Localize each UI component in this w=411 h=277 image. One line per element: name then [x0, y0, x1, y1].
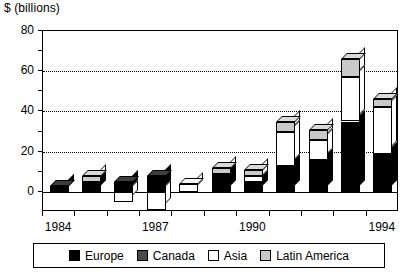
x-tickmark [301, 211, 302, 216]
bar-segment-europe [341, 122, 360, 192]
y-axis-tick-40: 40 [6, 103, 34, 117]
bar-top-face [179, 178, 204, 184]
x-axis-tick-1984: 1984 [33, 220, 83, 234]
y-tickmark [38, 50, 42, 51]
y-tickmark [38, 191, 42, 192]
legend-label: Latin America [276, 249, 349, 263]
x-tickmark [366, 211, 367, 216]
x-axis-tick-1990: 1990 [227, 220, 277, 234]
bar-segment-europe [212, 174, 231, 192]
legend-item-europe[interactable]: Europe [69, 249, 124, 263]
x-tickmark [74, 211, 75, 216]
x-tickmark [236, 211, 237, 216]
legend-label: Canada [153, 249, 195, 263]
legend-item-asia[interactable]: Asia [208, 249, 247, 263]
y-tickmark [38, 30, 42, 31]
bar-segment-europe [82, 182, 101, 192]
bar-top-face [50, 180, 75, 186]
bar-segment-latin-america [309, 130, 328, 140]
y-tickmark [38, 90, 42, 91]
bar-segment-europe [309, 160, 328, 192]
x-tickmark [171, 211, 172, 216]
zero-axis-line [43, 192, 397, 193]
bar-segment-europe [244, 182, 263, 192]
bar-segment-latin-america [276, 122, 295, 132]
x-tickmark [107, 211, 108, 216]
x-tickmark [139, 211, 140, 216]
legend-label: Asia [224, 249, 247, 263]
legend-item-canada[interactable]: Canada [137, 249, 195, 263]
bar-segment-latin-america [82, 176, 101, 182]
legend-item-latin-america[interactable]: Latin America [260, 249, 349, 263]
chart-container: $ (billions) 020406080 1984198719901994 … [0, 0, 411, 277]
legend-swatch-icon [208, 250, 219, 261]
legend-swatch-icon [260, 250, 271, 261]
bar-segment-latin-america [341, 59, 360, 77]
y-axis-tick-20: 20 [6, 144, 34, 158]
bar-segment-latin-america [212, 168, 231, 174]
y-tickmark [38, 171, 42, 172]
y-tickmark [38, 151, 42, 152]
bar-segment-europe [373, 154, 392, 192]
bar-segment-asia [179, 184, 198, 192]
plot-area [42, 30, 398, 211]
bar-segment-asia [244, 176, 263, 182]
bar-segment-asia [341, 77, 360, 121]
x-tickmark [333, 211, 334, 216]
bar-segment-asia [373, 107, 392, 153]
x-tickmark [269, 211, 270, 216]
bar-segment-asia [114, 192, 133, 202]
bar-segment-asia [309, 140, 328, 160]
chart-legend: EuropeCanadaAsiaLatin America [33, 243, 385, 268]
y-tickmark [38, 70, 42, 71]
x-tickmark [204, 211, 205, 216]
x-axis-tick-1987: 1987 [130, 220, 180, 234]
x-axis-tick-1994: 1994 [357, 220, 407, 234]
y-axis-tick-60: 60 [6, 63, 34, 77]
bar-segment-latin-america [373, 99, 392, 107]
legend-label: Europe [85, 249, 124, 263]
bar-segment-europe [276, 166, 295, 192]
bar-segment-europe [114, 182, 133, 192]
bar-segment-asia [147, 192, 166, 210]
y-axis-tick-80: 80 [6, 23, 34, 37]
legend-swatch-icon [69, 250, 80, 261]
y-tickmark [38, 131, 42, 132]
y-axis-tick-0: 0 [6, 184, 34, 198]
y-axis-label: $ (billions) [4, 1, 60, 15]
legend-swatch-icon [137, 250, 148, 261]
bar-segment-latin-america [244, 170, 263, 176]
bar-segment-europe [50, 186, 69, 192]
x-tickmark [42, 211, 43, 216]
bar-segment-europe [147, 176, 166, 192]
y-tickmark [38, 110, 42, 111]
bar-segment-asia [276, 132, 295, 166]
